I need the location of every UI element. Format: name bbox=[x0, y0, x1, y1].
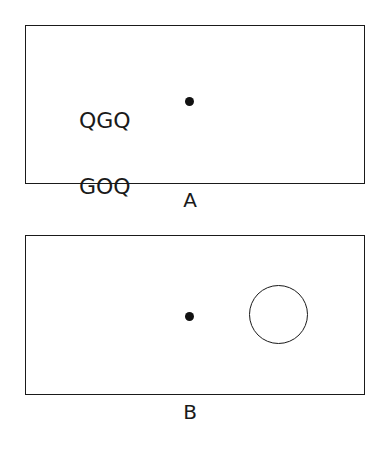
panel-b-frame bbox=[25, 235, 365, 395]
panel-b-label: B bbox=[170, 402, 210, 422]
target-circle-icon bbox=[249, 285, 308, 344]
letter-row-2: GOQ bbox=[79, 176, 131, 198]
stimulus-figure: QGQ GOQ QGG A B bbox=[0, 0, 382, 453]
panel-a-label: A bbox=[170, 190, 210, 210]
panel-a-frame: QGQ GOQ QGG bbox=[25, 25, 365, 184]
letter-row-1: QGQ bbox=[79, 110, 131, 132]
fixation-dot-icon bbox=[185, 312, 194, 321]
fixation-dot-icon bbox=[185, 97, 194, 106]
